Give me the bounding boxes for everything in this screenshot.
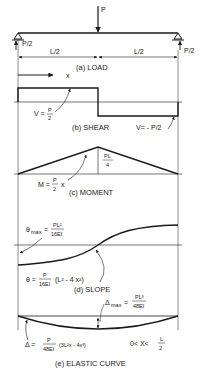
- moment-peak-den: 4: [106, 162, 109, 168]
- slope-eq-suffix: (L² - 4 x²): [55, 276, 84, 284]
- slope-caption: (d) SLOPE: [74, 285, 110, 294]
- elastic-eq-den: 48EI: [43, 346, 55, 352]
- moment-diagram: PL 4 M = P 2 x (c) MOMENT: [14, 147, 182, 197]
- elastic-max-den: 48EI: [133, 303, 145, 309]
- shear-caption: (b) SHEAR: [72, 123, 110, 132]
- slope-max-sub: max: [31, 229, 42, 235]
- shear-left-leader: [55, 89, 70, 112]
- left-reaction-label: P/2: [22, 40, 33, 47]
- elastic-range-num: L: [160, 336, 163, 342]
- right-reaction-label: P/2: [184, 47, 195, 54]
- shear-left-num: P: [48, 107, 52, 113]
- beam-diagram: P P/2 P/2 L/2 L/2 (a) LOAD x V = P: [0, 0, 204, 377]
- moment-eq-den: 2: [53, 186, 56, 192]
- elastic-eq-num: P: [47, 337, 51, 343]
- slope-eq-prefix: θ =: [26, 276, 36, 283]
- moment-eq-suffix: x: [61, 181, 65, 188]
- slope-max-leader: [20, 238, 42, 253]
- right-support-icon: [172, 33, 184, 50]
- elastic-caption: (e) ELASTIC CURVE: [55, 359, 126, 368]
- right-span-label: L/2: [134, 48, 144, 55]
- elastic-max-eq: =: [124, 299, 128, 306]
- moment-leader: [68, 155, 86, 180]
- left-span-label: L/2: [50, 48, 60, 55]
- elastic-max-leader: [100, 304, 104, 322]
- elastic-max-sub: max: [111, 302, 122, 308]
- moment-peak-num: PL: [104, 153, 111, 159]
- elastic-eq-leader: [26, 320, 28, 340]
- elastic-eq-suffix: (3L²x - 4x³): [59, 342, 86, 348]
- slope-max-prefix: θ: [26, 226, 30, 233]
- slope-eq-leader: [96, 250, 104, 282]
- moment-caption: (c) MOMENT: [69, 188, 114, 197]
- shear-left-prefix: V =: [34, 110, 45, 117]
- elastic-range-den: 2: [159, 345, 162, 351]
- moment-eq-num: P: [53, 177, 57, 183]
- shear-right-label: V= - P/2: [136, 124, 162, 131]
- elastic-max-num: PL³: [135, 294, 144, 300]
- shear-diagram: V = P 2 V= - P/2 (b) SHEAR: [14, 88, 182, 132]
- slope-diagram: θ max = PL² 16EI θ = P 16EI (L² - 4 x²) …: [14, 222, 182, 294]
- slope-max-eq: =: [44, 226, 48, 233]
- elastic-max-prefix: Δ: [105, 299, 110, 306]
- slope-eq-num: P: [43, 272, 47, 278]
- elastic-eq-prefix: Δ =: [25, 341, 35, 348]
- load-caption: (a) LOAD: [76, 63, 108, 72]
- slope-max-num: PL²: [53, 222, 62, 228]
- shear-right-leader: [168, 117, 174, 129]
- elastic-curve-diagram: Δ max = PL³ 48EI Δ = P 48EI (3L²x - 4x³)…: [18, 294, 178, 368]
- load-diagram: P P/2 P/2 L/2 L/2 (a) LOAD x: [12, 6, 195, 79]
- slope-max-den: 16EI: [51, 231, 63, 237]
- x-axis-label: x: [66, 72, 70, 79]
- load-force-label: P: [101, 6, 106, 13]
- shear-left-den: 2: [48, 115, 51, 121]
- elastic-range-prefix: 0< X<: [130, 340, 149, 347]
- slope-eq-den: 16EI: [39, 281, 51, 287]
- moment-eq-prefix: M =: [38, 181, 50, 188]
